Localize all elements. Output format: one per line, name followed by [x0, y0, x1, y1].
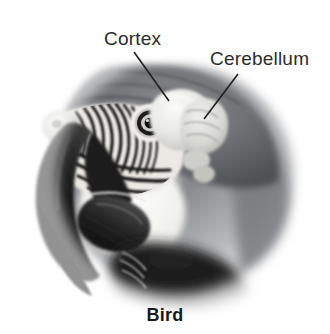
- figure-caption: Bird: [0, 305, 330, 326]
- lower-lobe: [193, 165, 215, 183]
- label-cortex: Cortex: [104, 28, 161, 50]
- bird-brain-figure: Cortex Cerebellum Bird: [0, 0, 330, 334]
- eye-highlight: [146, 119, 149, 122]
- label-cerebellum: Cerebellum: [210, 48, 309, 70]
